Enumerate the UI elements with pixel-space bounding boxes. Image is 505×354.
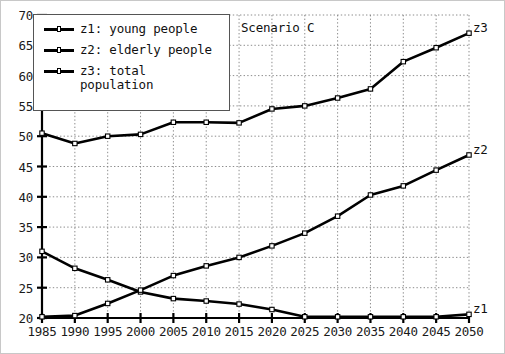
x-axis-tick-label: 2030 [321, 324, 355, 339]
data-point-marker-z1 [171, 296, 175, 300]
data-point-marker-z3 [368, 87, 372, 91]
data-point-marker-z3 [138, 132, 142, 136]
x-axis-tick-label: 2040 [386, 324, 420, 339]
data-point-marker-z2 [368, 193, 372, 197]
x-axis-tick-label: 2050 [452, 324, 486, 339]
legend-entry-z2[interactable]: z2: elderly people [44, 43, 229, 58]
data-point-marker-z1 [237, 302, 241, 306]
x-axis-tick-label: 2000 [124, 324, 158, 339]
x-axis-tick-label: 1995 [91, 324, 125, 339]
legend-label-z1: z1: young people [80, 22, 197, 36]
data-point-marker-z3 [237, 121, 241, 125]
y-axis-tick-label: 65 [3, 38, 33, 53]
data-point-marker-z1 [105, 278, 109, 282]
chart-figure: 2025303540455055606570 19851990199520002… [0, 0, 505, 354]
series-end-label-z2: z2 [473, 142, 488, 157]
series-end-label-z3: z3 [473, 20, 488, 35]
data-point-marker-z3 [73, 141, 77, 145]
data-point-marker-z3 [335, 96, 339, 100]
data-point-marker-z3 [204, 120, 208, 124]
data-point-marker-z2 [73, 313, 77, 317]
data-point-marker-z2 [401, 184, 405, 188]
x-axis-tick-label: 2020 [255, 324, 289, 339]
series-end-label-z1: z1 [473, 301, 488, 316]
x-axis-tick-label: 1990 [58, 324, 92, 339]
data-point-marker-z2 [105, 301, 109, 305]
series-line-z1 [42, 251, 469, 316]
legend-entry-z1[interactable]: z1: young people [44, 22, 229, 37]
data-point-marker-z1 [204, 299, 208, 303]
legend-label-z3: z3: total population [80, 64, 153, 92]
scenario-annotation: Scenario C [241, 20, 314, 35]
x-axis-tick-label: 2025 [288, 324, 322, 339]
data-point-marker-z3 [434, 46, 438, 50]
data-point-marker-z2 [467, 153, 471, 157]
legend-label-z2: z2: elderly people [80, 43, 212, 57]
data-point-marker-z2 [138, 288, 142, 292]
data-point-marker-z3 [303, 104, 307, 108]
series-line-z2 [42, 155, 469, 317]
data-point-marker-z1 [434, 315, 438, 319]
y-axis-tick-label: 60 [3, 69, 33, 84]
y-axis-tick-label: 45 [3, 160, 33, 175]
y-axis-tick-label: 40 [3, 190, 33, 205]
data-point-marker-z1 [270, 307, 274, 311]
y-axis-tick-label: 30 [3, 250, 33, 265]
legend-line-swatch-z2 [44, 44, 74, 57]
legend-line-swatch-z3 [44, 65, 74, 78]
data-point-marker-z2 [171, 273, 175, 277]
data-point-marker-z3 [171, 120, 175, 124]
x-axis-tick-label: 2005 [156, 324, 190, 339]
data-point-marker-z2 [434, 168, 438, 172]
data-point-marker-z2 [335, 214, 339, 218]
data-point-marker-z1 [335, 315, 339, 319]
data-point-marker-z1 [40, 249, 44, 253]
data-point-marker-z2 [270, 244, 274, 248]
data-point-marker-z2 [303, 231, 307, 235]
data-point-marker-z1 [467, 312, 471, 316]
data-point-marker-z1 [73, 266, 77, 270]
data-point-marker-z3 [467, 31, 471, 35]
data-point-marker-z3 [40, 131, 44, 135]
data-point-marker-z1 [401, 315, 405, 319]
x-axis-tick-label: 2010 [189, 324, 223, 339]
y-axis-tick-label: 25 [3, 281, 33, 296]
data-point-marker-z2 [204, 264, 208, 268]
x-axis-tick-label: 1985 [25, 324, 59, 339]
x-axis-tick-label: 2015 [222, 324, 256, 339]
data-point-marker-z2 [40, 315, 44, 319]
x-axis-tick-label: 2045 [419, 324, 453, 339]
data-point-marker-z1 [368, 315, 372, 319]
y-axis-tick-label: 70 [3, 8, 33, 23]
data-point-marker-z3 [105, 134, 109, 138]
chart-legend: z1: young peoplez2: elderly peoplez3: to… [33, 14, 230, 111]
x-axis-tick-label: 2035 [353, 324, 387, 339]
data-point-marker-z3 [270, 107, 274, 111]
legend-line-swatch-z1 [44, 23, 74, 36]
data-point-marker-z1 [303, 315, 307, 319]
y-axis-tick-label: 35 [3, 220, 33, 235]
data-point-marker-z3 [401, 59, 405, 63]
y-axis-tick-label: 50 [3, 129, 33, 144]
y-axis-tick-label: 55 [3, 99, 33, 114]
legend-entry-z3[interactable]: z3: total population [44, 64, 229, 92]
data-point-marker-z2 [237, 255, 241, 259]
